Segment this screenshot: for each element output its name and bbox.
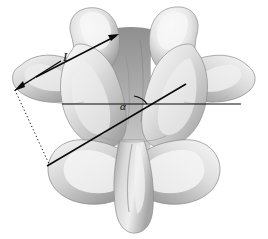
length-label-L: L	[63, 50, 70, 63]
angle-label-alpha: α	[120, 101, 126, 112]
spinous-process	[114, 140, 154, 233]
vertebra-illustration	[0, 0, 268, 239]
figure-canvas: L α	[0, 0, 268, 239]
vertebra-shape	[13, 7, 256, 233]
